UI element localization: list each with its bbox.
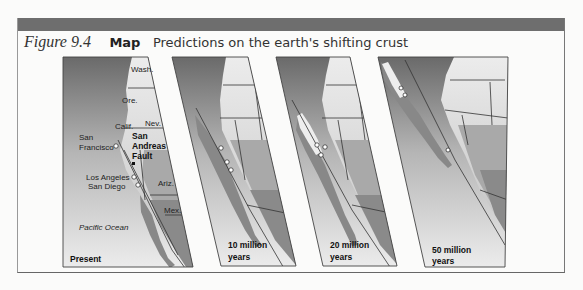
- map-panel-50-million-years: 50 million years: [376, 57, 511, 269]
- label-pacific-ocean: Pacific Ocean: [79, 223, 129, 232]
- label-san-francisco-1: San: [79, 133, 93, 142]
- label-mexico: Mex.: [164, 206, 181, 215]
- label-fault-2: Andreas: [132, 141, 166, 151]
- map-panel-20-million-years: 20 million years: [274, 57, 402, 270]
- label-arizona: Ariz.: [158, 179, 174, 188]
- panel-label-50-million-line1: 50 million: [432, 245, 471, 255]
- label-san-francisco-2: Francisco: [79, 143, 114, 152]
- panel-label-10-million-line1: 10 million: [228, 240, 267, 250]
- map-panels: Wash. Ore. Calif. Nev. San Francisco San…: [0, 0, 583, 290]
- panel-label-20-million-line1: 20 million: [330, 240, 369, 250]
- label-nevada: Nev.: [145, 119, 161, 128]
- panel-label-10-million-line2: years: [228, 252, 250, 262]
- panel-label-20-million-line2: years: [330, 252, 352, 262]
- label-washington: Wash.: [131, 65, 153, 74]
- label-san-diego: San Diego: [88, 182, 126, 191]
- map-panel-10-million-years: 10 million years: [170, 57, 300, 270]
- label-california: Calif.: [115, 122, 133, 131]
- panel-label-50-million-line2: years: [432, 256, 454, 266]
- label-fault-3: Fault: [132, 151, 152, 161]
- panel-label-present: Present: [70, 254, 101, 264]
- label-oregon: Ore.: [122, 96, 138, 105]
- label-los-angeles: Los Angeles: [86, 173, 130, 182]
- label-fault-1: San: [132, 131, 148, 141]
